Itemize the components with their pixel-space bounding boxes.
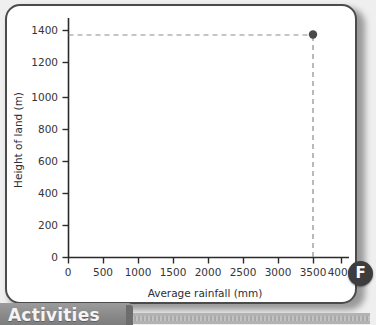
y-tick-label: 1200 <box>31 56 58 68</box>
y-tick-label: 200 <box>38 219 58 231</box>
data-point[interactable] <box>309 30 317 38</box>
chart-canvas: 0 200 400 600 800 1000 1200 1400 <box>0 0 376 325</box>
x-tick-label: 1500 <box>160 266 187 278</box>
x-axis-title: Average rainfall (mm) <box>148 287 263 299</box>
y-tick-label: 600 <box>38 155 58 167</box>
x-tick-label: 2500 <box>230 266 257 278</box>
scatter-chart: 0 200 400 600 800 1000 1200 1400 <box>0 0 376 325</box>
figure-badge: F <box>348 261 373 286</box>
y-tick-label: 1000 <box>31 91 58 103</box>
x-tick-label: 3500 <box>300 266 327 278</box>
figure-page: 0 200 400 600 800 1000 1200 1400 <box>0 0 376 325</box>
y-axis-tick-labels: 0 200 400 600 800 1000 1200 1400 <box>31 24 58 263</box>
y-tick-label: 1400 <box>31 24 58 36</box>
activities-tab-label: Activities <box>8 305 100 325</box>
x-axis-tick-labels: 0 500 1000 1500 2000 2500 3000 3500 4000 <box>65 266 355 278</box>
y-tick-label: 0 <box>51 251 58 263</box>
x-axis-ticks <box>69 258 342 264</box>
figure-badge-label: F <box>348 261 373 286</box>
y-tick-label: 800 <box>38 123 58 135</box>
x-tick-label: 500 <box>93 266 113 278</box>
x-tick-label: 0 <box>65 266 72 278</box>
y-tick-label: 400 <box>38 187 58 199</box>
y-axis-ticks <box>63 31 69 258</box>
x-tick-label: 2000 <box>195 266 222 278</box>
x-tick-label: 1000 <box>125 266 152 278</box>
x-tick-label: 3000 <box>265 266 292 278</box>
y-axis-title: Height of land (m) <box>12 92 24 188</box>
activities-tab-edge <box>126 305 133 325</box>
